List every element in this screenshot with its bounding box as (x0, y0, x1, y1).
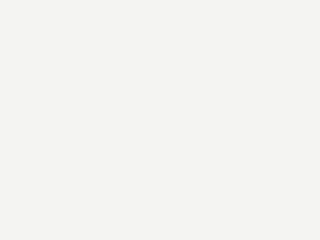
chart-canvas (0, 0, 313, 231)
